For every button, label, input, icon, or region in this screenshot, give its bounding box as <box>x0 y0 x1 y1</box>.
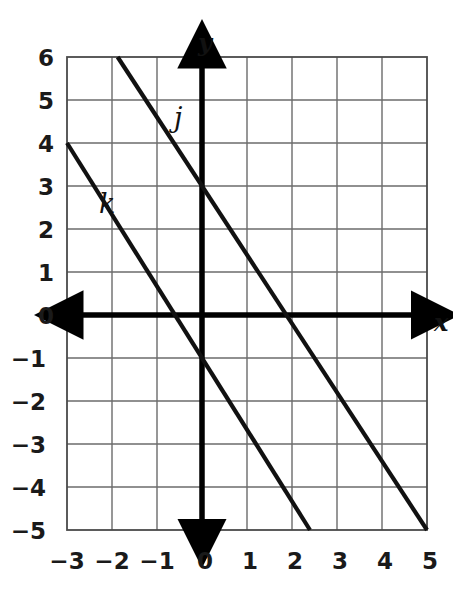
y-tick-label: 1 <box>8 260 54 286</box>
coordinate-graph-figure: 6 5 4 3 2 1 0 −1 −2 −3 −4 −5 −3 −2 −1 0 … <box>0 0 453 592</box>
x-tick-label: 5 <box>407 548 453 574</box>
y-tick-label: −1 <box>0 346 46 372</box>
y-tick-label: −3 <box>0 432 46 458</box>
y-tick-label: 2 <box>8 217 54 243</box>
x-tick-label: −2 <box>89 548 135 574</box>
y-tick-label: 3 <box>8 174 54 200</box>
x-tick-label: −1 <box>134 548 180 574</box>
plotted-line-j <box>118 57 427 530</box>
x-axis-label: x <box>434 308 448 337</box>
x-tick-label: 2 <box>272 548 318 574</box>
y-tick-label: 4 <box>8 131 54 157</box>
y-tick-label: 6 <box>8 45 54 71</box>
y-tick-label: −2 <box>0 389 46 415</box>
y-tick-label: −5 <box>0 518 46 544</box>
y-axis-label: y <box>198 28 212 57</box>
x-tick-label: 0 <box>182 548 228 574</box>
x-tick-label: 3 <box>317 548 363 574</box>
graph-canvas <box>0 0 453 592</box>
x-tick-label: 4 <box>362 548 408 574</box>
x-tick-label: 1 <box>227 548 273 574</box>
y-tick-label: 0 <box>8 303 54 329</box>
line-label-j: j <box>174 102 182 133</box>
y-tick-label: 5 <box>8 88 54 114</box>
line-label-k: k <box>99 188 115 219</box>
y-tick-label: −4 <box>0 475 46 501</box>
x-tick-label: −3 <box>44 548 90 574</box>
grid-lines <box>67 57 427 530</box>
